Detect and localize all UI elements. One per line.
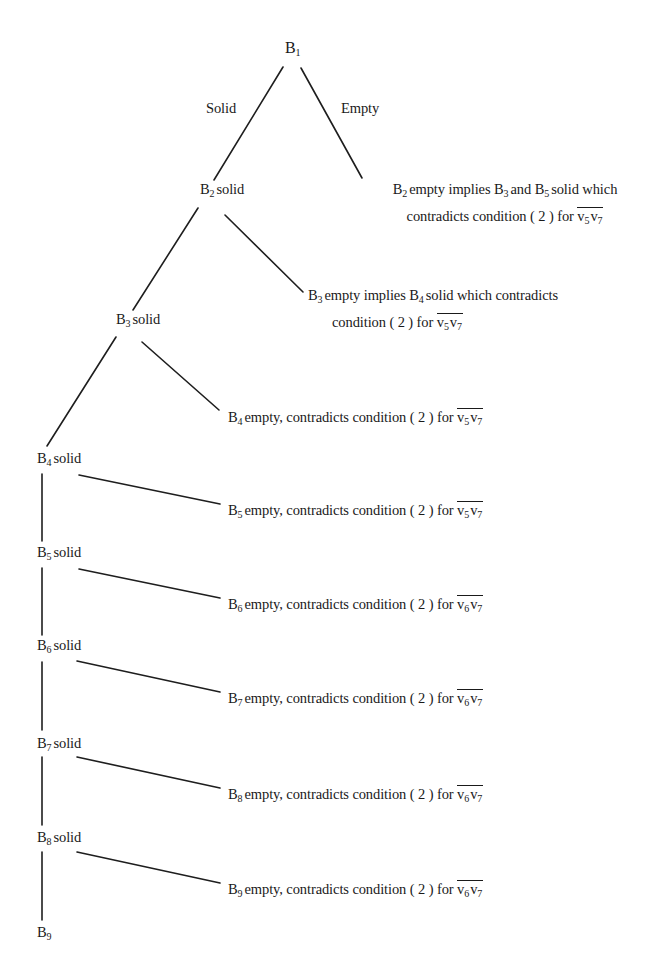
node-b4-solid: B4solid	[37, 451, 81, 466]
var-index: 5	[544, 188, 549, 199]
node-state: solid	[53, 544, 81, 560]
edge-b5-to-b6-empty	[79, 569, 220, 598]
text: empty, contradicts condition ( 2 ) for	[244, 502, 457, 518]
var: B	[409, 287, 419, 303]
node-state: solid	[53, 735, 81, 751]
node-index: 7	[47, 742, 52, 753]
node-var: B	[37, 637, 47, 653]
text: contradicts condition ( 2 ) for	[407, 208, 578, 224]
node-b7-solid: B7solid	[37, 736, 81, 751]
var-index: 6	[238, 603, 243, 614]
contradiction-b9-empty: B9empty, contradicts condition ( 2 ) for…	[228, 880, 483, 897]
var-index: 5	[238, 509, 243, 520]
node-state: solid	[132, 311, 160, 327]
edge-index: 7	[477, 793, 482, 804]
text: solid which contradicts	[426, 287, 558, 303]
contradiction-line-2: condition ( 2 ) for v5v7	[308, 313, 558, 330]
node-state: solid	[53, 637, 81, 653]
var-index: 4	[419, 294, 424, 305]
text: empty, contradicts condition ( 2 ) for	[244, 596, 457, 612]
var-index: 3	[504, 188, 509, 199]
edge-index: 7	[477, 888, 482, 899]
node-var: B	[37, 735, 47, 751]
var-index: 8	[238, 793, 243, 804]
node-var: B	[116, 311, 126, 327]
contradiction-b8-empty: B8empty, contradicts condition ( 2 ) for…	[228, 785, 483, 802]
var-index: 9	[238, 888, 243, 899]
contradiction-b6-empty: B6empty, contradicts condition ( 2 ) for…	[228, 595, 483, 612]
text: condition ( 2 ) for	[332, 314, 437, 330]
edge-symbol-overline: v6v7	[457, 785, 483, 802]
edge-index: 6	[464, 697, 469, 708]
edge-b8-to-b9-empty	[77, 852, 220, 883]
contradiction-b5-empty: B5empty, contradicts condition ( 2 ) for…	[228, 501, 483, 518]
edge-var: v	[437, 314, 444, 330]
var-index: 2	[402, 188, 407, 199]
node-state: solid	[53, 829, 81, 845]
node-index: 9	[47, 931, 52, 942]
branch-label-empty: Empty	[341, 101, 379, 116]
var: B	[228, 690, 238, 706]
var: B	[228, 502, 238, 518]
node-b2-solid: B2solid	[200, 182, 244, 197]
node-index: 6	[47, 644, 52, 655]
node-var: B	[37, 924, 47, 940]
tree-edges	[0, 0, 672, 976]
node-b6-solid: B6solid	[37, 638, 81, 653]
contradiction-b2-empty: B2empty implies B3and B5solid which cont…	[360, 182, 650, 223]
edge-symbol-overline: v5v7	[437, 313, 463, 330]
edge-index: 7	[457, 321, 462, 332]
edge-symbol-overline: v5v7	[457, 408, 483, 425]
var-index: 7	[238, 697, 243, 708]
node-var: B	[285, 39, 296, 56]
node-var: B	[200, 181, 210, 197]
contradiction-b7-empty: B7empty, contradicts condition ( 2 ) for…	[228, 689, 483, 706]
node-index: 4	[47, 457, 52, 468]
edge-b6-to-b7-empty	[77, 661, 220, 692]
edge-var: v	[590, 208, 597, 224]
var: B	[228, 881, 238, 897]
text: empty, contradicts condition ( 2 ) for	[244, 786, 457, 802]
node-index: 2	[210, 188, 215, 199]
node-var: B	[37, 544, 47, 560]
edge-symbol-overline: v5v7	[577, 207, 603, 224]
node-b3-solid: B3solid	[116, 312, 160, 327]
node-var: B	[37, 829, 47, 845]
var: B	[535, 181, 545, 197]
edge-index: 5	[444, 321, 449, 332]
edge-index: 5	[584, 215, 589, 226]
node-state: solid	[216, 181, 244, 197]
contradiction-line-1: B3empty implies B4solid which contradict…	[308, 288, 558, 303]
contradiction-b3-empty: B3empty implies B4solid which contradict…	[308, 288, 558, 329]
edge-index: 5	[464, 416, 469, 427]
node-var: B	[37, 450, 47, 466]
text: solid which	[551, 181, 617, 197]
node-index: 8	[47, 836, 52, 847]
var: B	[228, 409, 238, 425]
branch-label-solid: Solid	[206, 101, 236, 116]
edge-b4-to-b5-empty	[79, 475, 220, 504]
var: B	[308, 287, 318, 303]
edge-index: 5	[464, 509, 469, 520]
edge-index: 7	[477, 509, 482, 520]
var: B	[393, 181, 403, 197]
var-index: 4	[238, 416, 243, 427]
text: empty, contradicts condition ( 2 ) for	[244, 409, 457, 425]
edge-b2-to-b3-solid	[133, 208, 198, 310]
node-b8-solid: B8solid	[37, 830, 81, 845]
edge-index: 6	[464, 603, 469, 614]
edge-index: 7	[477, 416, 482, 427]
text: and	[510, 181, 534, 197]
node-state: solid	[53, 450, 81, 466]
text: empty, contradicts condition ( 2 ) for	[244, 881, 457, 897]
edge-b3-to-b4-empty	[142, 342, 219, 410]
contradiction-line-1: B2empty implies B3and B5solid which	[360, 182, 650, 197]
edge-index: 6	[464, 793, 469, 804]
edge-index: 7	[477, 697, 482, 708]
edge-b1-to-b2-solid	[214, 67, 283, 180]
edge-index: 6	[464, 888, 469, 899]
node-b5-solid: B5solid	[37, 545, 81, 560]
node-index: 1	[296, 47, 301, 58]
edge-b1-to-b2-empty	[301, 68, 362, 178]
edge-symbol-overline: v6v7	[457, 689, 483, 706]
